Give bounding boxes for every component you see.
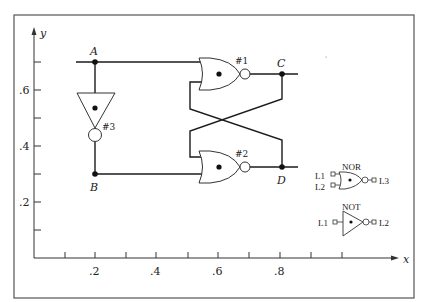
node-b-dot bbox=[92, 171, 98, 177]
x-tick-label: .2 bbox=[89, 265, 100, 278]
gate-1-label: #1 bbox=[235, 56, 248, 66]
x-tick-label: .8 bbox=[274, 265, 285, 278]
node-a-dot bbox=[92, 59, 98, 65]
x-tick-label: .6 bbox=[212, 265, 223, 278]
x-tick-label: .4 bbox=[150, 265, 161, 278]
gate-3-label: #3 bbox=[102, 122, 116, 132]
y-axis-arrow-icon bbox=[32, 27, 37, 35]
flip-flop-diagram: y x .2 .4 .6 .8 .6 .4 .2 #3 #1 bbox=[0, 0, 427, 302]
x-axis-label: x bbox=[403, 253, 410, 266]
y-tick-label: .6 bbox=[19, 84, 30, 97]
node-c-dot bbox=[279, 71, 285, 77]
junction-dots bbox=[92, 59, 285, 177]
y-axis-label: y bbox=[39, 27, 47, 40]
gate-2-label: #2 bbox=[235, 149, 248, 159]
legend-not-title: NOT bbox=[342, 202, 361, 212]
y-tick-label: .2 bbox=[19, 196, 30, 209]
legend-nor-in1: L1 bbox=[315, 171, 325, 181]
legend-not-in: L1 bbox=[318, 218, 328, 228]
legend-nor-out: L3 bbox=[379, 176, 389, 186]
nor-gate-1: #1 bbox=[199, 56, 250, 90]
legend-nor-in2: L2 bbox=[315, 182, 325, 192]
legend-not: NOT L1 L2 bbox=[318, 202, 389, 236]
x-axis-arrow-icon bbox=[391, 256, 399, 261]
circuit-wires bbox=[76, 62, 298, 174]
node-a-label: A bbox=[89, 45, 98, 58]
y-tick-label: .4 bbox=[19, 140, 30, 153]
legend-nor: NOR L1 L2 L3 bbox=[315, 162, 389, 192]
node-d-label: D bbox=[276, 174, 286, 187]
nor-gate-2: #2 bbox=[199, 149, 250, 183]
node-d-dot bbox=[279, 164, 285, 170]
speck bbox=[325, 56, 326, 57]
not-gate-3: #3 bbox=[77, 93, 116, 142]
node-b-label: B bbox=[89, 181, 98, 194]
legend-nor-title: NOR bbox=[342, 162, 361, 172]
legend-not-out: L2 bbox=[379, 218, 389, 228]
node-c-label: C bbox=[277, 57, 286, 70]
